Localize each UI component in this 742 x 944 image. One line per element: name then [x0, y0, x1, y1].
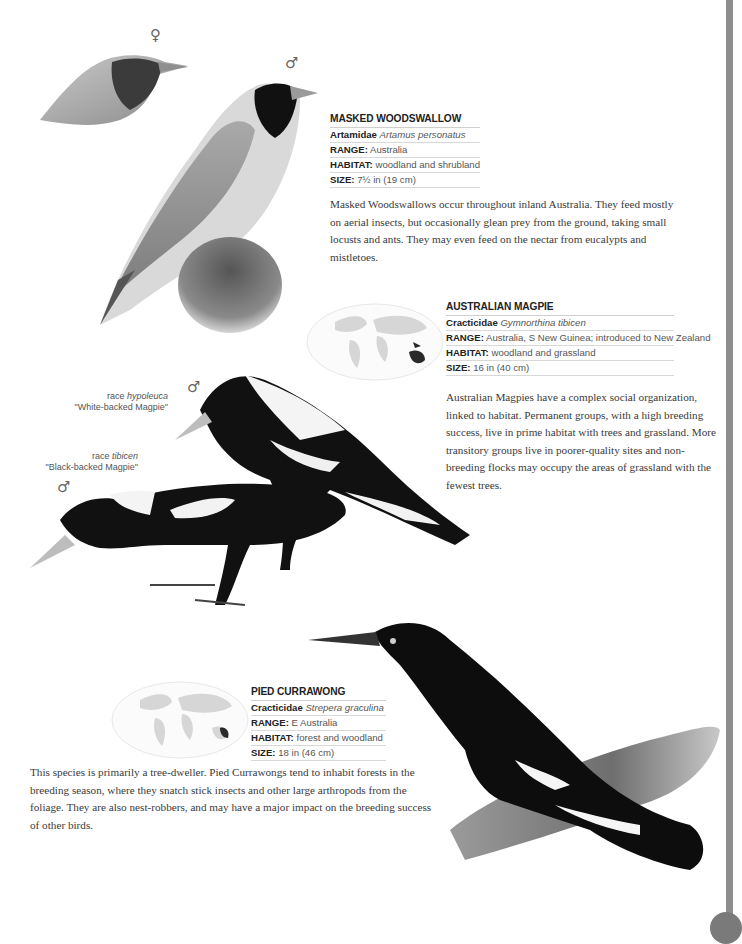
family-name: Cracticidae: [446, 317, 498, 328]
size-label: SIZE:: [251, 747, 276, 758]
species-habitat: HABITAT: forest and woodland: [251, 731, 386, 746]
species-size: SIZE: 7½ in (19 cm): [330, 173, 480, 188]
range-label: RANGE:: [330, 144, 368, 155]
scientific-name: Strepera graculina: [305, 702, 383, 713]
magpie-description: Australian Magpies have a complex social…: [446, 389, 718, 495]
range-value: Australia: [370, 144, 407, 155]
habitat-label: HABITAT:: [446, 347, 489, 358]
currawong-range-map: [112, 682, 248, 758]
species-size: SIZE: 16 in (40 cm): [446, 361, 674, 376]
size-value: 18 in (46 cm): [278, 747, 334, 758]
woodswallow-male-illustration: [100, 83, 318, 333]
species-taxonomy: Cracticidae Strepera graculina: [251, 701, 386, 716]
habitat-value: woodland and grassland: [491, 347, 595, 358]
range-value: E Australia: [292, 717, 338, 728]
male-symbol-icon: ♂: [57, 478, 70, 496]
size-value: 7½ in (19 cm): [357, 174, 416, 185]
species-range: RANGE: E Australia: [251, 716, 386, 731]
species-name: MASKED WOODSWALLOW: [330, 112, 480, 128]
race-common-name: "White-backed Magpie": [60, 402, 168, 413]
species-name: PIED CURRAWONG: [251, 685, 386, 701]
currawong-description: This species is primarily a tree-dweller…: [30, 764, 442, 834]
scientific-name: Gymnorthina tibicen: [500, 317, 585, 328]
woodswallow-info-block: MASKED WOODSWALLOW Artamidae Artamus per…: [330, 112, 480, 188]
species-name: AUSTRALIAN MAGPIE: [446, 300, 674, 316]
size-value: 16 in (40 cm): [473, 362, 529, 373]
habitat-label: HABITAT:: [251, 732, 294, 743]
family-name: Cracticidae: [251, 702, 303, 713]
race-common-name: "Black-backed Magpie": [30, 462, 138, 473]
size-label: SIZE:: [330, 174, 355, 185]
male-symbol-icon: ♂: [187, 378, 200, 396]
species-taxonomy: Artamidae Artamus personatus: [330, 128, 480, 143]
range-label: RANGE:: [251, 717, 289, 728]
habitat-value: woodland and shrubland: [375, 159, 480, 170]
species-range: RANGE: Australia, S New Guinea; introduc…: [446, 331, 674, 346]
magpie-range-map: [307, 304, 443, 380]
scientific-name: Artamus personatus: [380, 129, 466, 140]
race-tibicen-caption: race tibicen "Black-backed Magpie": [30, 451, 138, 473]
race-hypoleuca-caption: race hypoleuca "White-backed Magpie": [60, 391, 168, 413]
size-label: SIZE:: [446, 362, 471, 373]
woodswallow-female-illustration: [40, 55, 188, 125]
species-habitat: HABITAT: woodland and grassland: [446, 346, 674, 361]
page-tab-marker: [710, 912, 742, 944]
woodswallow-description: Masked Woodswallows occur throughout inl…: [330, 196, 680, 266]
page-edge-strip: [726, 0, 733, 922]
species-habitat: HABITAT: woodland and shrubland: [330, 158, 480, 173]
species-range: RANGE: Australia: [330, 143, 480, 158]
magpie-info-block: AUSTRALIAN MAGPIE Cracticidae Gymnorthin…: [446, 300, 674, 376]
female-symbol-icon: ♀: [150, 26, 161, 44]
male-symbol-icon: ♂: [285, 54, 298, 72]
species-size: SIZE: 18 in (46 cm): [251, 746, 386, 761]
magpie-black-backed-illustration: [30, 484, 346, 605]
habitat-value: forest and woodland: [296, 732, 382, 743]
race-name: race hypoleuca: [60, 391, 168, 402]
currawong-info-block: PIED CURRAWONG Cracticidae Strepera grac…: [251, 685, 386, 761]
family-name: Artamidae: [330, 129, 377, 140]
species-taxonomy: Cracticidae Gymnorthina tibicen: [446, 316, 674, 331]
range-label: RANGE:: [446, 332, 484, 343]
range-value: Australia, S New Guinea; introduced to N…: [486, 332, 711, 343]
race-name: race tibicen: [30, 451, 138, 462]
habitat-label: HABITAT:: [330, 159, 373, 170]
